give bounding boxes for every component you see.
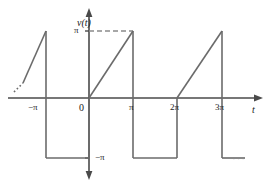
x-axis-arrow-icon bbox=[254, 95, 263, 102]
x-axis-label: t bbox=[252, 105, 255, 115]
ramp-zero-to-pi bbox=[89, 31, 133, 98]
y-axis-arrow-up-icon bbox=[86, 8, 93, 17]
y-tick-label-neg-pi: −π bbox=[95, 153, 105, 162]
sawtooth-waveform-figure: v(t) π −π −π 0 π 2π 3π t ··· bbox=[0, 0, 274, 189]
left-continuation-dots bbox=[14, 83, 23, 92]
x-tick-label-two-pi: 2π bbox=[170, 103, 179, 112]
right-ellipsis: ··· bbox=[232, 153, 246, 164]
x-tick-label-three-pi: 3π bbox=[215, 103, 224, 112]
sawtooth-curve-group bbox=[14, 31, 245, 158]
ramp-two-pi-to-three-pi bbox=[177, 31, 222, 98]
x-tick-label-zero: 0 bbox=[79, 103, 84, 113]
x-tick-label-neg-pi: −π bbox=[28, 103, 38, 112]
y-tick-label-pi: π bbox=[74, 26, 79, 35]
y-axis-arrow-down-icon bbox=[86, 171, 93, 180]
x-tick-label-pi: π bbox=[129, 103, 134, 112]
ramp-segment-before-neg-pi bbox=[23, 31, 46, 83]
y-axis-label: v(t) bbox=[77, 18, 91, 28]
